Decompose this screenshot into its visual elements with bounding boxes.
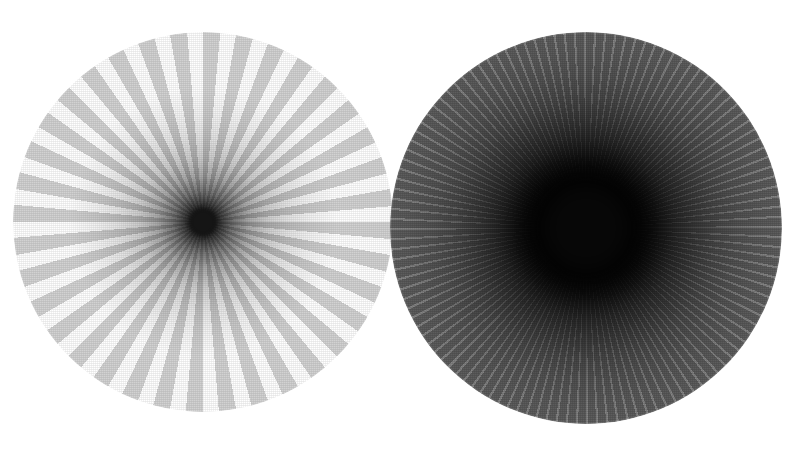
left-radial-spoke-pattern [13, 32, 393, 412]
left-spokes-layer [13, 32, 393, 412]
right-radial-spoke-pattern [390, 32, 782, 424]
figure-canvas [0, 0, 792, 450]
right-spokes-layer [390, 32, 782, 424]
